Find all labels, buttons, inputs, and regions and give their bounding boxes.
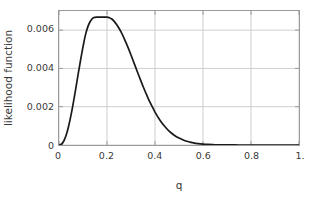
x-tick-label: 0.6 <box>196 150 211 161</box>
chart-figure: 00.0020.0040.006 00.20.40.60.81. q likel… <box>0 0 321 202</box>
y-tick-label: 0 <box>48 141 54 151</box>
x-tick-label: 0.8 <box>244 150 259 161</box>
x-tick-label: 0 <box>55 150 61 161</box>
plot-area <box>58 10 300 146</box>
x-tick-label: 0.2 <box>99 150 114 161</box>
y-tick-label: 0.006 <box>27 24 54 34</box>
x-tick-label: 1. <box>295 150 304 161</box>
x-axis-label: q <box>176 179 183 191</box>
y-tick-label: 0.002 <box>27 102 54 112</box>
x-tick-label: 0.4 <box>147 150 162 161</box>
y-axis-label: likelihood function <box>2 30 14 126</box>
y-tick-label: 0.004 <box>27 63 54 73</box>
likelihood-curve <box>59 11 299 145</box>
